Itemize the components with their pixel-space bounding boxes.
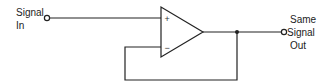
input-label: Signal In [16,6,44,32]
output-terminal [281,29,286,34]
input-terminal [44,15,49,20]
output-label-line2: Signal [287,26,316,39]
output-label: Same Signal Out [290,13,316,52]
inverting-symbol: − [165,43,170,53]
output-label-line3: Out [290,39,316,52]
input-label-line2: In [16,19,44,32]
voltage-follower-diagram: + − [0,0,330,83]
noninverting-symbol: + [165,14,170,24]
output-label-line1: Same [290,13,316,26]
input-label-line1: Signal [16,6,44,19]
